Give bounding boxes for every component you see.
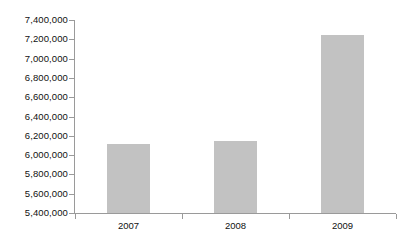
y-axis-tick-label: 6,200,000 <box>25 131 68 141</box>
y-axis-tick-mark <box>69 117 74 118</box>
y-axis-tick-label: 5,400,000 <box>25 208 68 218</box>
bar-chart: 7,400,0007,200,0007,000,0006,800,0006,60… <box>0 0 407 248</box>
x-axis-tick-label: 2009 <box>332 220 353 232</box>
x-axis-line <box>74 213 396 214</box>
x-axis-tick-mark <box>289 214 290 219</box>
x-axis-tick-label: 2007 <box>118 220 139 232</box>
y-axis-tick-mark <box>69 194 74 195</box>
y-axis-tick-mark <box>69 97 74 98</box>
y-axis-tick-label: 5,600,000 <box>25 189 68 199</box>
y-axis-tick-label: 7,000,000 <box>25 54 68 64</box>
x-axis-tick-mark <box>75 214 76 219</box>
x-axis-category-labels: 200720082009 <box>75 220 396 240</box>
bar <box>321 35 364 213</box>
y-axis-tick-mark <box>69 39 74 40</box>
y-axis-tick-label: 6,000,000 <box>25 150 68 160</box>
y-axis-tick-mark <box>69 213 74 214</box>
x-axis-tick-mark <box>182 214 183 219</box>
y-axis-tick-mark <box>69 155 74 156</box>
y-axis-tick-label: 6,600,000 <box>25 92 68 102</box>
y-axis-tick-label: 5,800,000 <box>25 169 68 179</box>
bar <box>107 144 150 213</box>
y-axis-tick-label: 6,800,000 <box>25 73 68 83</box>
y-axis-tick-label: 7,200,000 <box>25 34 68 44</box>
plot-area <box>75 20 396 213</box>
y-axis-tick-labels: 7,400,0007,200,0007,000,0006,800,0006,60… <box>0 0 72 248</box>
y-axis-tick-mark <box>69 20 74 21</box>
x-axis-tick-mark <box>396 214 397 219</box>
y-axis-tick-label: 7,400,000 <box>25 15 68 25</box>
y-axis-tick-label: 6,400,000 <box>25 112 68 122</box>
x-axis-tick-label: 2008 <box>225 220 246 232</box>
y-axis-tick-mark <box>69 78 74 79</box>
y-axis-tick-mark <box>69 174 74 175</box>
bar <box>214 141 257 213</box>
y-axis-tick-mark <box>69 59 74 60</box>
y-axis-tick-mark <box>69 136 74 137</box>
